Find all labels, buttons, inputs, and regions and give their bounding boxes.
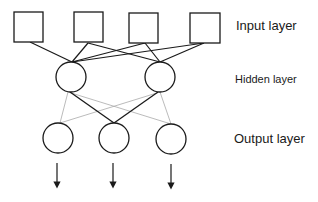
edge-h2-o2 (114, 92, 158, 123)
input-node-2 (74, 12, 103, 42)
input-node-1 (14, 12, 43, 42)
edge-h2-o1 (60, 92, 160, 123)
hidden-layer-nodes (56, 62, 175, 92)
edge-i1-h1 (30, 42, 72, 62)
hidden-node-2 (145, 62, 175, 92)
output-node-3 (156, 124, 186, 154)
input-hidden-edges (30, 42, 204, 62)
edge-h1-o2 (70, 92, 114, 123)
output-layer-nodes (43, 123, 186, 154)
hidden-layer-label: Hidden layer (235, 73, 297, 85)
edge-h1-o1 (60, 92, 68, 123)
edge-i4-h1 (72, 43, 204, 62)
edge-i2-h1 (72, 43, 88, 62)
output-arrows (57, 163, 171, 186)
output-node-2 (99, 123, 129, 153)
output-layer-label: Output layer (234, 131, 305, 146)
input-layer-nodes (14, 12, 220, 43)
edge-i2-h2 (88, 43, 160, 62)
input-node-3 (129, 13, 158, 43)
edge-h2-o3 (160, 92, 171, 124)
input-node-4 (190, 13, 220, 43)
output-node-1 (43, 123, 73, 153)
hidden-node-1 (56, 62, 86, 92)
input-layer-label: Input layer (236, 18, 297, 33)
